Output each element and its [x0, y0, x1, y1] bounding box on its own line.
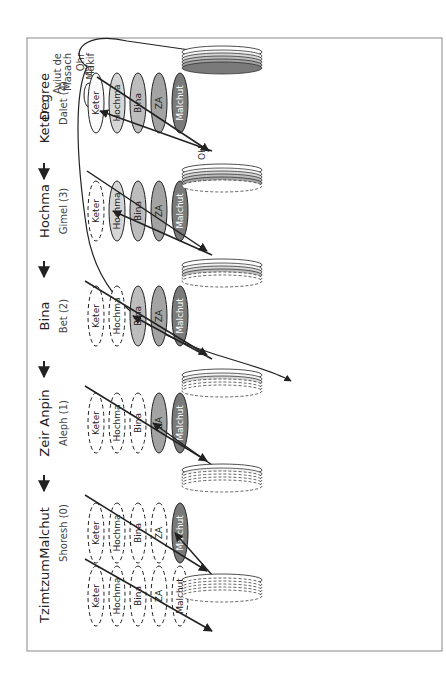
svg-text:Malchut: Malchut [175, 85, 185, 121]
guf-column-3 [182, 369, 262, 397]
stage-title-hochma: Hochma [37, 184, 52, 238]
stage-title-zeir-anpin: Zeir Anpin [37, 389, 52, 456]
svg-text::: : [37, 100, 52, 104]
figure-svg: Degree Keter : Hochma Bina Zeir Anpin Ma… [0, 0, 446, 683]
stage-title-tzimtzum: Tzimtzum [37, 559, 52, 624]
svg-text:Keter: Keter [91, 411, 101, 435]
svg-text:Keter: Keter [91, 304, 101, 328]
svg-text:Keter: Keter [91, 521, 101, 545]
guf-column-1 [182, 164, 262, 192]
svg-text:Malchut: Malchut [175, 405, 185, 441]
stage-title-malchut: Malchut [37, 507, 52, 559]
svg-text:ZA: ZA [154, 309, 164, 322]
stage-title-bina: Bina [37, 302, 52, 331]
aviut-hochma: Gimel (3) [58, 188, 69, 235]
svg-text:Keter: Keter [91, 584, 101, 608]
aviut-malchut: Shoresh (0) [58, 504, 69, 562]
guf-column-0 [182, 46, 262, 74]
figure-frame [27, 38, 442, 651]
svg-text:Hochma: Hochma [112, 514, 122, 551]
aviut-zeir-anpin: Aleph (1) [58, 400, 69, 446]
guf-column-4 [182, 464, 262, 492]
svg-text:Malchut: Malchut [175, 193, 185, 229]
stage-title-keter: Keter [37, 108, 52, 143]
svg-text:ZA: ZA [154, 96, 164, 109]
svg-text:Malchut: Malchut [175, 298, 185, 334]
guf-column-5 [182, 574, 262, 602]
svg-text:OY: OY [84, 63, 94, 76]
svg-text:Bina: Bina [133, 201, 143, 221]
aviut-bina: Bet (2) [58, 299, 69, 333]
masach-label: Masach [62, 53, 73, 91]
svg-text:Keter: Keter [91, 91, 101, 115]
svg-text:Malchut: Malchut [175, 515, 185, 551]
svg-text:Hochma: Hochma [112, 404, 122, 441]
svg-text:Hochma: Hochma [112, 577, 122, 614]
svg-text:Bina: Bina [133, 93, 143, 113]
svg-text:ZA: ZA [154, 204, 164, 217]
diagram-stage: Degree Keter : Hochma Bina Zeir Anpin Ma… [0, 0, 446, 683]
svg-text:Keter: Keter [91, 199, 101, 223]
svg-text:ZA: ZA [154, 526, 164, 539]
guf-column-2 [182, 259, 262, 287]
